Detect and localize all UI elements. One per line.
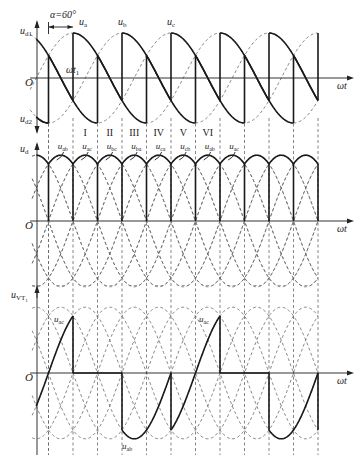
interval-numerals: IIIIIIIVVVI	[84, 127, 213, 138]
interval-3: III	[129, 127, 139, 138]
uc-label: uc	[167, 16, 175, 29]
wt-label-top: ωt	[337, 80, 347, 91]
ua-label: ua	[79, 16, 88, 29]
line-label-ac: uac	[229, 141, 239, 152]
interval-6: VI	[202, 127, 213, 138]
interval-1: I	[84, 127, 87, 138]
uvt1-label: uVT1	[11, 289, 28, 303]
line-label-ac: uac	[82, 141, 92, 152]
ud2-label: ud2	[20, 113, 33, 126]
line-label-cb: ucb	[180, 141, 190, 152]
output-waveforms	[36, 33, 318, 439]
origin-label-top: O	[25, 76, 33, 88]
ud1-label: ud1	[20, 25, 33, 38]
uab-annotation: uab	[122, 441, 132, 452]
ub-label: ub	[118, 16, 127, 29]
alpha-label: α=60°	[50, 9, 76, 20]
uac-annotation-2: uac	[199, 314, 209, 325]
alpha-dimension: α=60°	[49, 9, 77, 34]
interval-2: II	[106, 127, 113, 138]
line-label-ca: uca	[156, 141, 166, 152]
line-label-ba: uba	[131, 141, 142, 152]
wt-label-mid: ωt	[337, 223, 347, 234]
line-label-ab: uab	[58, 141, 68, 152]
line-label-ab: uab	[205, 141, 215, 152]
line-voltage-labels: uabuacubcubaucaucbuabuac	[57, 141, 240, 160]
origin-label-mid: O	[25, 219, 33, 231]
wt-label-bottom: ωt	[337, 375, 347, 386]
interval-4: IV	[153, 127, 164, 138]
uac-annotation-1: uac	[54, 314, 64, 325]
origin-label-bottom: O	[25, 371, 33, 383]
line-label-bc: ubc	[107, 141, 118, 152]
interval-5: V	[180, 127, 188, 138]
rectifier-waveform-diagram: α=60° ua ub uc ud1 ud2 O ωt1 ωt IIIIIIIV…	[0, 0, 357, 460]
ud-label: ud	[20, 143, 29, 156]
